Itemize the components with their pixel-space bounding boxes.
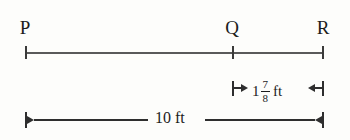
segment-tick-r xyxy=(322,46,324,59)
point-label-p: P xyxy=(10,18,40,37)
long-dimension-tick-right xyxy=(322,112,324,128)
mixed-number: 1 7 8 xyxy=(252,79,270,104)
segment-diagram: P Q R 1 7 8 ft 10 ft xyxy=(0,0,350,140)
segment-tick-q xyxy=(232,46,234,59)
point-label-r: R xyxy=(308,18,338,37)
long-dimension-label: 10 ft xyxy=(155,110,185,126)
long-dimension-rule-right xyxy=(205,119,315,121)
point-label-q: Q xyxy=(217,18,247,37)
arrow-right-icon xyxy=(241,84,248,92)
short-dimension-tick-right xyxy=(322,81,324,96)
fraction: 7 8 xyxy=(261,79,271,104)
short-dimension-label: 1 7 8 ft xyxy=(252,79,282,104)
fraction-numerator: 7 xyxy=(261,79,271,91)
long-dimension-rule-left xyxy=(34,119,148,121)
fraction-denominator: 8 xyxy=(261,92,271,104)
short-dimension-rule-right xyxy=(313,87,322,89)
segment-line xyxy=(25,52,323,54)
whole-number: 1 xyxy=(252,84,260,99)
arrow-left-icon xyxy=(315,116,322,124)
short-dimension-unit: ft xyxy=(273,84,282,99)
segment-tick-p xyxy=(25,46,27,59)
arrow-right-icon xyxy=(27,116,34,124)
